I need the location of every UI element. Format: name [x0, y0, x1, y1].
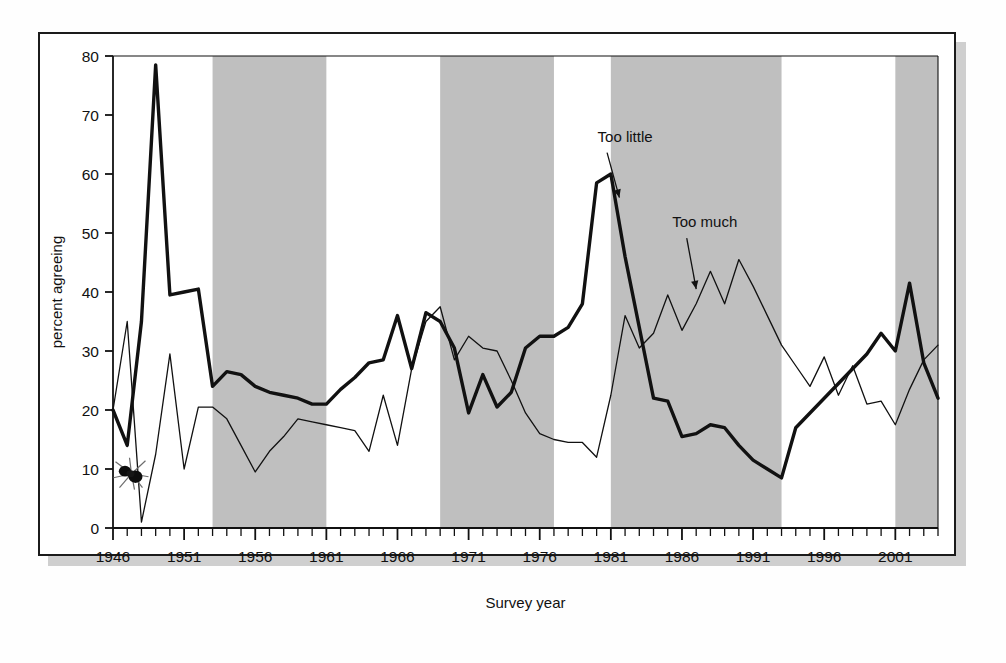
x-tick-label-1966: 1966	[380, 548, 414, 565]
y-tick-label-10: 10	[82, 461, 100, 478]
y-tick-label-50: 50	[82, 225, 100, 242]
x-tick-label-1991: 1991	[736, 548, 770, 565]
scan-artifact-layer	[113, 458, 148, 490]
y-tick-label-70: 70	[82, 107, 100, 124]
x-tick-label-1951: 1951	[167, 548, 201, 565]
line-chart: 0102030405060708019461951195619611966197…	[0, 0, 1006, 663]
shaded-band-0	[213, 56, 327, 528]
annotation-label-too-little: Too little	[598, 128, 653, 145]
fly-speck-icon	[113, 458, 148, 490]
shaded-band-1	[440, 56, 554, 528]
y-tick-label-20: 20	[82, 402, 100, 419]
x-tick-label-1986: 1986	[665, 548, 699, 565]
x-tick-label-2001: 2001	[878, 548, 912, 565]
x-tick-label-1956: 1956	[238, 548, 272, 565]
y-tick-label-80: 80	[82, 48, 100, 65]
x-tick-label-1996: 1996	[807, 548, 841, 565]
annotation-label-too-much: Too much	[672, 213, 737, 230]
x-tick-label-1961: 1961	[309, 548, 343, 565]
y-axis-title: percent agreeing	[48, 236, 65, 349]
y-tick-label-0: 0	[90, 520, 99, 537]
figure-root: 0102030405060708019461951195619611966197…	[0, 0, 1006, 663]
x-tick-label-1971: 1971	[451, 548, 485, 565]
x-tick-label-1946: 1946	[96, 548, 130, 565]
fly-body	[126, 470, 134, 477]
plot-container: 0102030405060708019461951195619611966197…	[0, 0, 1006, 663]
y-tick-label-30: 30	[82, 343, 100, 360]
x-tick-label-1976: 1976	[522, 548, 556, 565]
y-tick-label-60: 60	[82, 166, 100, 183]
shaded-band-3	[895, 56, 938, 528]
y-tick-label-40: 40	[82, 284, 100, 301]
shaded-bands-layer	[213, 56, 938, 528]
x-axis-title: Survey year	[485, 594, 565, 611]
x-tick-label-1981: 1981	[594, 548, 628, 565]
